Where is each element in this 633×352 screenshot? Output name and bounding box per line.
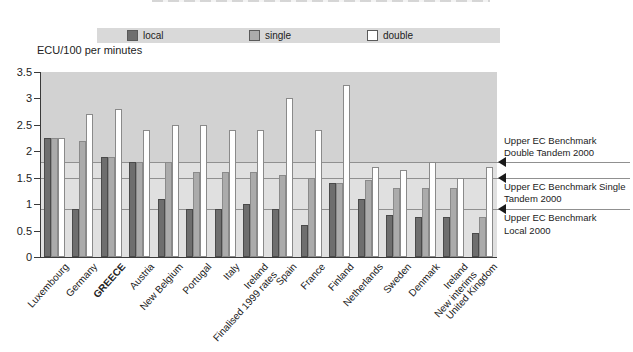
bar-local-greece xyxy=(101,157,108,257)
y-tick-label: 3 xyxy=(2,92,32,104)
bar-single-spain xyxy=(279,175,286,257)
bar-double-france xyxy=(315,130,322,257)
bar-single-germany xyxy=(79,141,86,257)
bar-local-new-belgium xyxy=(158,199,165,257)
x-label-luxembourg: Luxembourg xyxy=(25,261,71,310)
bar-double-italy xyxy=(229,130,236,257)
plot-background-upper xyxy=(40,72,497,162)
bar-single-new-belgium xyxy=(165,162,172,257)
y-axis-title: ECU/100 per minutes xyxy=(37,44,142,56)
benchmark-annotation-0: Upper EC Benchmark Double Tandem 2000 xyxy=(504,135,596,160)
bar-double-germany xyxy=(86,114,93,257)
bar-local-austria xyxy=(129,162,136,257)
x-label-ireland: Ireland Finalised 1999 rates xyxy=(202,261,279,343)
benchmark-annotation-1: Upper EC Benchmark Single Tandem 2000 xyxy=(504,181,625,206)
legend-label: local xyxy=(143,30,164,41)
legend-swatch-local-icon xyxy=(127,30,138,41)
bar-double-portugal xyxy=(200,125,207,257)
y-tick-label: 2.5 xyxy=(2,119,32,131)
bar-double-new-belgium xyxy=(172,125,179,257)
bar-single-luxembourg xyxy=(51,138,58,257)
bar-double-austria xyxy=(143,130,150,257)
y-tick-label: 1.5 xyxy=(2,172,32,184)
legend-label: single xyxy=(265,30,291,41)
bar-local-ireland xyxy=(443,217,450,257)
legend-item-local: local xyxy=(127,30,164,41)
benchmark-annotation-2: Upper EC Benchmark Local 2000 xyxy=(504,212,596,237)
legend-swatch-double-icon xyxy=(367,30,378,41)
bar-local-italy xyxy=(215,209,222,257)
bar-local-finland xyxy=(329,183,336,257)
bar-single-netherlands xyxy=(365,180,372,257)
bar-single-denmark xyxy=(422,188,429,257)
bar-single-ireland xyxy=(250,172,257,257)
bar-single-austria xyxy=(136,162,143,257)
bar-double-spain xyxy=(286,98,293,257)
y-tick-label: 3.5 xyxy=(2,66,32,78)
bar-local-germany xyxy=(72,209,79,257)
bar-double-luxembourg xyxy=(58,138,65,257)
bar-single-portugal xyxy=(193,172,200,257)
bar-local-united-kingdom xyxy=(472,233,479,257)
bar-double-denmark xyxy=(429,162,436,257)
bar-double-netherlands xyxy=(372,167,379,257)
bar-single-greece xyxy=(108,157,115,257)
bar-double-greece xyxy=(115,109,122,257)
bar-local-luxembourg xyxy=(44,138,51,257)
bar-double-ireland xyxy=(257,130,264,257)
x-label-portugal: Portugal xyxy=(180,261,213,296)
bar-double-sweden xyxy=(400,170,407,257)
bar-single-italy xyxy=(222,172,229,257)
bar-local-ireland xyxy=(243,204,250,257)
legend-item-single: single xyxy=(249,30,291,41)
bar-local-denmark xyxy=(415,217,422,257)
legend-swatch-single-icon xyxy=(249,30,260,41)
bar-local-portugal xyxy=(186,209,193,257)
bar-double-ireland xyxy=(457,178,464,257)
bar-local-sweden xyxy=(386,215,393,257)
bar-single-united-kingdom xyxy=(479,217,486,257)
y-tick-label: 1 xyxy=(2,198,32,210)
bar-single-ireland xyxy=(450,188,457,257)
legend-item-double: double xyxy=(367,30,413,41)
y-tick-label: 0.5 xyxy=(2,225,32,237)
bar-local-france xyxy=(301,225,308,257)
cropped-title-remnant xyxy=(152,0,490,2)
bar-local-netherlands xyxy=(358,199,365,257)
x-label-france: France xyxy=(299,261,328,292)
legend-label: double xyxy=(383,30,413,41)
chart-figure: localsingledouble ECU/100 per minutes Up… xyxy=(0,0,633,352)
bar-local-spain xyxy=(272,209,279,257)
chart-legend: localsingledouble xyxy=(97,28,500,43)
x-axis-line xyxy=(40,257,497,258)
bar-single-france xyxy=(308,178,315,257)
bar-double-finland xyxy=(343,85,350,257)
bar-single-sweden xyxy=(393,188,400,257)
bar-single-finland xyxy=(336,183,343,257)
y-tick-label: 0 xyxy=(2,251,32,263)
x-label-italy: Italy xyxy=(221,261,242,282)
x-label-spain: Spain xyxy=(274,261,300,288)
y-tick-label: 2 xyxy=(2,145,32,157)
y-axis-line xyxy=(40,72,41,257)
bar-double-united-kingdom xyxy=(486,167,493,257)
